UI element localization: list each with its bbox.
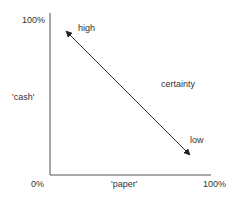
arrow-high-label: high [78, 23, 95, 33]
arrow-certainty-label: certainty [161, 79, 195, 89]
diagram-canvas [0, 0, 241, 201]
arrow-low-label: low [190, 135, 204, 145]
y-axis-top-label: 100% [22, 15, 45, 25]
x-axis-end-label: 100% [203, 179, 226, 189]
certainty-arrow [66, 31, 190, 155]
x-axis-name: 'paper' [111, 179, 137, 189]
y-axis-name: 'cash' [12, 92, 34, 102]
x-axis-origin-label: 0% [31, 179, 44, 189]
